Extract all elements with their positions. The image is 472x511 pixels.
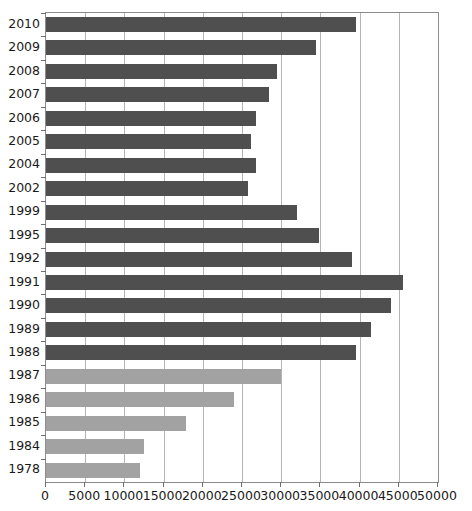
x-tick xyxy=(280,482,281,487)
y-tick xyxy=(41,13,46,14)
y-axis-tick-label: 2006 xyxy=(0,112,40,125)
y-tick xyxy=(41,177,46,178)
bar-row xyxy=(46,201,438,224)
y-tick xyxy=(41,271,46,272)
bar-1978 xyxy=(46,463,140,478)
bar-1984 xyxy=(46,439,144,454)
y-axis-tick-label: 1990 xyxy=(0,299,40,312)
y-axis-tick-label: 1989 xyxy=(0,323,40,336)
x-tick xyxy=(202,482,203,487)
bar-2008 xyxy=(46,64,277,79)
x-axis-tick-label: 10000 xyxy=(104,490,144,503)
y-tick xyxy=(41,224,46,225)
y-axis-tick-label: 1984 xyxy=(0,440,40,453)
y-tick xyxy=(41,60,46,61)
y-axis-tick-label: 1978 xyxy=(0,463,40,476)
x-axis-tick-label: 40000 xyxy=(339,490,379,503)
bar-row xyxy=(46,83,438,106)
y-axis-tick-label: 1995 xyxy=(0,229,40,242)
bar-row xyxy=(46,318,438,341)
bar-row xyxy=(46,60,438,83)
bar-row xyxy=(46,388,438,411)
y-axis-tick-label: 1987 xyxy=(0,369,40,382)
y-axis-tick-label: 2008 xyxy=(0,65,40,78)
bar-1995 xyxy=(46,228,319,243)
y-tick xyxy=(41,83,46,84)
y-tick xyxy=(41,435,46,436)
y-axis-tick-label: 1986 xyxy=(0,393,40,406)
bar-1999 xyxy=(46,205,297,220)
bar-1991 xyxy=(46,275,403,290)
y-tick xyxy=(41,388,46,389)
bar-1985 xyxy=(46,416,186,431)
y-axis-tick-label: 2004 xyxy=(0,158,40,171)
bar-1987 xyxy=(46,369,281,384)
bar-row xyxy=(46,177,438,200)
bar-row xyxy=(46,271,438,294)
y-axis-tick-label: 1991 xyxy=(0,276,40,289)
x-axis-tick-label: 15000 xyxy=(143,490,183,503)
y-tick xyxy=(41,36,46,37)
y-axis-tick-label: 1985 xyxy=(0,416,40,429)
x-axis: 0500010000150002000025000300003500040000… xyxy=(45,482,437,510)
bar-2006 xyxy=(46,111,256,126)
bar-row xyxy=(46,459,438,482)
y-tick xyxy=(41,248,46,249)
y-tick xyxy=(41,365,46,366)
x-axis-tick-label: 20000 xyxy=(182,490,222,503)
bar-row xyxy=(46,435,438,458)
x-tick xyxy=(123,482,124,487)
y-tick xyxy=(41,412,46,413)
bar-row xyxy=(46,365,438,388)
y-axis-tick-label: 1992 xyxy=(0,252,40,265)
y-axis-tick-label: 2010 xyxy=(0,18,40,31)
y-tick xyxy=(41,154,46,155)
bar-row xyxy=(46,36,438,59)
bar-row xyxy=(46,224,438,247)
x-axis-tick-label: 50000 xyxy=(417,490,457,503)
x-axis-tick-label: 45000 xyxy=(378,490,418,503)
x-tick xyxy=(163,482,164,487)
y-axis-tick-label: 1999 xyxy=(0,205,40,218)
bar-row xyxy=(46,154,438,177)
plot-area xyxy=(45,12,439,483)
x-tick xyxy=(241,482,242,487)
bar-1988 xyxy=(46,345,356,360)
x-axis-tick-label: 35000 xyxy=(300,490,340,503)
x-axis-tick-label: 0 xyxy=(41,490,49,503)
bar-1990 xyxy=(46,298,391,313)
bar-row xyxy=(46,130,438,153)
x-tick xyxy=(45,482,46,487)
y-tick xyxy=(41,107,46,108)
x-axis-tick-label: 25000 xyxy=(221,490,261,503)
y-axis-tick-label: 1988 xyxy=(0,346,40,359)
y-tick xyxy=(41,294,46,295)
y-axis-tick-label: 2007 xyxy=(0,88,40,101)
x-axis-tick-label: 5000 xyxy=(68,490,100,503)
bar-row xyxy=(46,107,438,130)
x-tick xyxy=(398,482,399,487)
y-tick xyxy=(41,318,46,319)
x-tick xyxy=(84,482,85,487)
x-tick xyxy=(359,482,360,487)
bar-chart: 2010200920082007200620052004200219991995… xyxy=(0,0,472,511)
bar-2010 xyxy=(46,17,356,32)
bar-1992 xyxy=(46,252,352,267)
y-axis-tick-label: 2005 xyxy=(0,135,40,148)
x-tick xyxy=(319,482,320,487)
y-axis-tick-label: 2002 xyxy=(0,182,40,195)
bar-1989 xyxy=(46,322,371,337)
bar-2004 xyxy=(46,158,256,173)
bar-row xyxy=(46,341,438,364)
bar-2007 xyxy=(46,87,269,102)
y-tick xyxy=(41,130,46,131)
x-tick xyxy=(437,482,438,487)
y-axis-tick-label: 2009 xyxy=(0,41,40,54)
x-axis-tick-label: 30000 xyxy=(260,490,300,503)
y-tick xyxy=(41,459,46,460)
bar-row xyxy=(46,13,438,36)
y-axis-labels: 2010200920082007200620052004200219991995… xyxy=(0,12,40,481)
bar-row xyxy=(46,294,438,317)
y-tick xyxy=(41,201,46,202)
bar-2009 xyxy=(46,40,316,55)
